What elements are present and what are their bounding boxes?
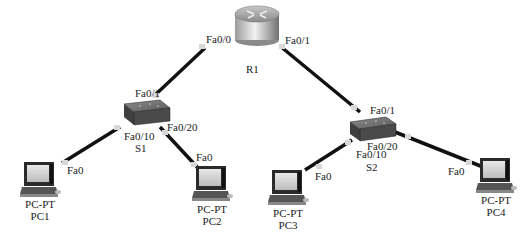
port-label-r1-fa01: Fa0/1: [285, 34, 310, 46]
connector-icon: [466, 160, 472, 165]
device-label-s1: S1: [135, 142, 147, 154]
link-s2-pc4[interactable]: [395, 132, 483, 167]
pc1-name: PC1: [22, 210, 58, 222]
port-label-s1-fa020: Fa0/20: [167, 121, 198, 133]
pc3-type: PC-PT: [270, 207, 306, 219]
connector-icon: [345, 140, 351, 145]
pc2-type: PC-PT: [194, 203, 230, 215]
connector-icon: [199, 44, 205, 49]
port-label-s2-fa020: Fa0/20: [367, 140, 398, 152]
pc2-name: PC2: [194, 215, 230, 227]
pc4-name: PC4: [478, 206, 514, 218]
device-label-r1: R1: [246, 63, 259, 75]
port-label-pc1-fa0: Fa0: [67, 164, 84, 176]
pc3-icon[interactable]: [268, 170, 309, 205]
port-label-s1-fa010: Fa0/10: [124, 130, 155, 142]
router-icon[interactable]: [235, 6, 279, 46]
connector-icon: [405, 134, 411, 139]
pc3-caption: PC-PT PC3: [270, 207, 306, 231]
pc1-caption: PC-PT PC1: [22, 198, 58, 222]
link-r1-s2[interactable]: [279, 44, 360, 112]
pc4-caption: PC-PT PC4: [478, 194, 514, 218]
port-label-s1-fa01: Fa0/1: [135, 87, 160, 99]
link-s1-pc2[interactable]: [160, 127, 198, 168]
connector-icon: [114, 125, 120, 130]
pc2-caption: PC-PT PC2: [194, 203, 230, 227]
pc2-icon[interactable]: [192, 166, 233, 201]
link-r1-s1[interactable]: [153, 44, 205, 98]
switch-s2-icon[interactable]: [350, 117, 396, 141]
pc1-icon[interactable]: [20, 162, 61, 197]
pc4-icon[interactable]: [476, 158, 517, 193]
connector-icon: [351, 105, 357, 110]
port-label-s2-fa01: Fa0/1: [370, 104, 395, 116]
topology-canvas: [0, 0, 527, 243]
link-s2-pc3[interactable]: [305, 140, 352, 170]
connector-icon: [316, 164, 322, 169]
port-label-pc4-fa0: Fa0: [448, 165, 465, 177]
pc4-type: PC-PT: [478, 194, 514, 206]
pc1-type: PC-PT: [22, 198, 58, 210]
port-label-pc3-fa0: Fa0: [315, 170, 332, 182]
port-label-r1-fa00: Fa0/0: [206, 33, 231, 45]
link-s1-pc1[interactable]: [62, 125, 120, 165]
device-label-s2: S2: [366, 161, 378, 173]
pc3-name: PC3: [270, 219, 306, 231]
port-label-pc2-fa0: Fa0: [196, 151, 213, 163]
switch-s1-icon[interactable]: [124, 100, 170, 125]
